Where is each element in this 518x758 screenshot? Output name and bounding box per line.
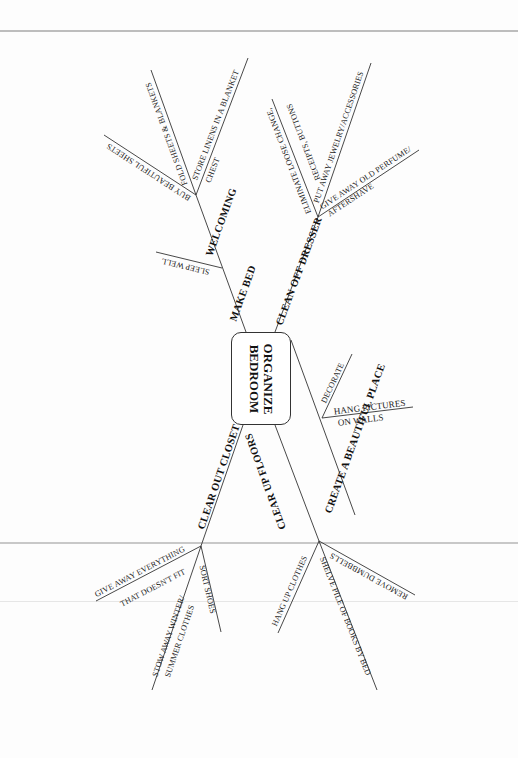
branch-clear-up-floors: CLEAR UP FLOORS bbox=[243, 432, 288, 531]
branch-clear-out-closet: CLEAR OUT CLOSET bbox=[195, 423, 241, 531]
leaf-sort-shoes: SORT SHOES bbox=[198, 564, 218, 614]
central-topic: ORGANIZE BEDROOM bbox=[247, 343, 275, 414]
central-topic-line2: BEDROOM bbox=[247, 343, 261, 414]
branch-clean-off-dresser: CLEAN OFF DRESSER bbox=[274, 215, 324, 326]
central-topic-line1: ORGANIZE bbox=[261, 343, 275, 414]
leaf-hang-up-clothes: HANG UP CLOTHES bbox=[270, 554, 309, 628]
hang-up-clothes-line bbox=[278, 541, 319, 633]
central-topic-box: ORGANIZE BEDROOM bbox=[231, 332, 291, 425]
branch-welcoming: WELCOMING bbox=[204, 186, 239, 257]
clear-closet-line bbox=[201, 425, 243, 546]
leaf-decorate: DECORATE bbox=[319, 361, 346, 404]
store-linens-line bbox=[196, 58, 248, 195]
